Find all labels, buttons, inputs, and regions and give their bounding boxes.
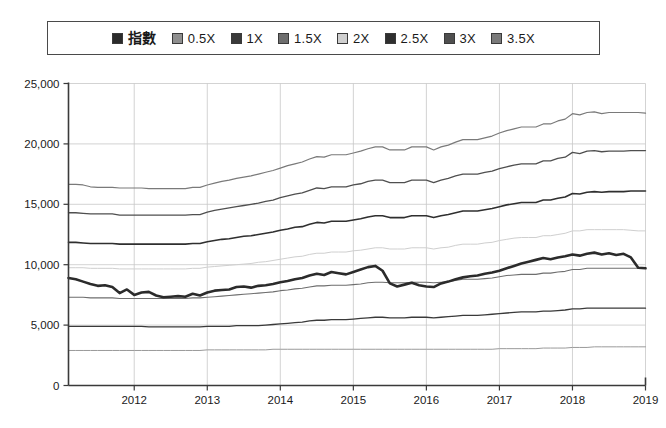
svg-text:10,000: 10,000 bbox=[24, 259, 59, 271]
svg-text:2019: 2019 bbox=[633, 394, 659, 406]
svg-text:2015: 2015 bbox=[341, 394, 367, 406]
series-lines bbox=[69, 112, 646, 351]
svg-text:20,000: 20,000 bbox=[24, 138, 59, 150]
line-chart-svg: 05,00010,00015,00020,00025,000 201220132… bbox=[0, 0, 666, 428]
svg-text:15,000: 15,000 bbox=[24, 198, 59, 210]
x-axis-tick-labels: 20122013201420152016201720182019 bbox=[121, 394, 658, 406]
svg-text:5,000: 5,000 bbox=[31, 319, 60, 331]
svg-text:25,000: 25,000 bbox=[24, 78, 59, 90]
svg-text:2012: 2012 bbox=[121, 394, 147, 406]
chart-plot-area: 05,00010,00015,00020,00025,000 201220132… bbox=[0, 0, 666, 428]
axis-ticks bbox=[64, 84, 646, 391]
svg-text:2014: 2014 bbox=[268, 394, 294, 406]
svg-text:2018: 2018 bbox=[560, 394, 586, 406]
svg-text:2017: 2017 bbox=[487, 394, 513, 406]
chart-page: 指數 0.5X 1X 1.5X 2X 2.5X 3X 3.5X bbox=[0, 0, 666, 428]
svg-text:0: 0 bbox=[53, 380, 59, 392]
y-axis-tick-labels: 05,00010,00015,00020,00025,000 bbox=[24, 78, 59, 392]
svg-text:2013: 2013 bbox=[194, 394, 220, 406]
svg-text:2016: 2016 bbox=[414, 394, 440, 406]
